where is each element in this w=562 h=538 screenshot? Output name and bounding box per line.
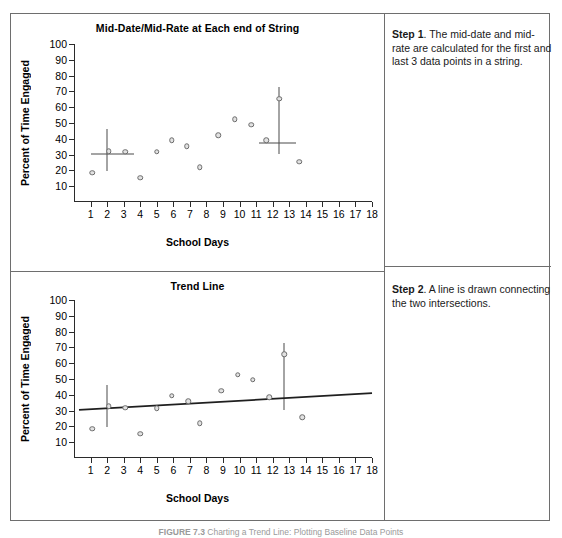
y-axis-tick <box>69 123 74 124</box>
x-axis-tick-label: 5 <box>154 208 160 220</box>
data-point <box>197 164 203 170</box>
chart-title: Mid-Date/Mid-Rate at Each end of String <box>11 22 384 34</box>
x-axis-tick <box>289 202 290 207</box>
y-axis-tick-label: 50 <box>55 117 67 129</box>
data-point <box>235 372 241 378</box>
x-axis-tick <box>372 458 373 463</box>
y-axis-tick <box>69 139 74 140</box>
data-point <box>169 393 175 399</box>
plot-area: 1020304050607080901001234567891011121314… <box>74 44 372 202</box>
data-point <box>300 414 306 420</box>
chart-panel-bottom: Trend Line Percent of Time Engaged 10203… <box>11 272 384 522</box>
x-axis-tick <box>223 458 224 463</box>
x-axis-tick <box>339 458 340 463</box>
x-axis-tick <box>240 202 241 207</box>
x-axis-tick <box>157 458 158 463</box>
x-axis-tick-label: 12 <box>267 464 279 476</box>
x-axis-tick-label: 13 <box>283 464 295 476</box>
x-axis-tick-label: 10 <box>234 208 246 220</box>
figure-frame: Mid-Date/Mid-Rate at Each end of String … <box>10 13 550 521</box>
x-axis-tick-label: 13 <box>283 208 295 220</box>
y-axis-tick-label: 30 <box>55 149 67 161</box>
y-axis-tick-label: 10 <box>55 180 67 192</box>
data-point <box>263 138 269 144</box>
data-point <box>106 149 112 155</box>
y-axis-label: Percent of Time Engaged <box>19 48 31 198</box>
trend-line <box>74 300 372 458</box>
data-point <box>137 175 143 181</box>
data-point <box>250 377 256 383</box>
x-axis-tick-label: 17 <box>350 464 362 476</box>
y-axis-tick <box>69 170 74 171</box>
x-axis-tick-label: 18 <box>366 208 378 220</box>
y-axis-tick-label: 100 <box>49 38 67 50</box>
x-axis-tick-label: 5 <box>154 464 160 476</box>
x-axis-tick-label: 16 <box>333 208 345 220</box>
y-axis-tick-label: 10 <box>55 436 67 448</box>
y-axis-tick-label: 70 <box>55 85 67 97</box>
x-axis-tick-label: 3 <box>121 208 127 220</box>
data-point <box>267 394 273 400</box>
step-2-label: Step 2 <box>392 283 424 295</box>
data-point <box>184 143 190 149</box>
y-axis-tick-label: 70 <box>55 341 67 353</box>
x-axis-tick <box>322 202 323 207</box>
x-axis-tick-label: 7 <box>187 464 193 476</box>
chart-panel-top: Mid-Date/Mid-Rate at Each end of String … <box>11 14 384 271</box>
x-axis-tick <box>240 458 241 463</box>
x-axis-tick-label: 7 <box>187 208 193 220</box>
figure-caption-label: FIGURE 7.3 <box>159 527 205 537</box>
x-axis-tick-label: 15 <box>316 464 328 476</box>
y-axis-tick-label: 90 <box>55 310 67 322</box>
y-axis-tick-label: 80 <box>55 326 67 338</box>
x-axis-tick-label: 2 <box>104 208 110 220</box>
x-axis-tick <box>91 202 92 207</box>
data-point <box>154 405 160 411</box>
data-point <box>232 116 238 122</box>
x-axis-tick-label: 11 <box>251 464 262 476</box>
x-axis-tick <box>107 202 108 207</box>
x-axis-tick-label: 12 <box>267 208 279 220</box>
data-point <box>219 388 225 394</box>
x-axis-tick-label: 14 <box>300 208 312 220</box>
x-axis-tick-label: 17 <box>350 208 362 220</box>
x-axis-tick-label: 8 <box>204 464 210 476</box>
x-axis-tick <box>107 458 108 463</box>
data-point <box>185 399 191 405</box>
y-axis-tick-label: 100 <box>49 294 67 306</box>
x-axis-tick <box>273 458 274 463</box>
x-axis-tick <box>322 458 323 463</box>
x-axis-tick <box>306 202 307 207</box>
y-axis-tick-label: 20 <box>55 164 67 176</box>
figure-caption-text: Charting a Trend Line: Plotting Baseline… <box>207 527 403 537</box>
y-axis-line <box>74 44 75 202</box>
y-axis-tick-label: 40 <box>55 389 67 401</box>
data-point <box>154 149 160 155</box>
panel-vertical-divider <box>384 14 385 520</box>
data-point <box>282 351 288 357</box>
x-axis-tick-label: 9 <box>220 208 226 220</box>
x-axis-tick-label: 2 <box>104 464 110 476</box>
y-axis-tick-label: 60 <box>55 357 67 369</box>
x-axis-tick <box>273 202 274 207</box>
x-axis-tick-label: 18 <box>366 464 378 476</box>
x-axis-tick <box>206 458 207 463</box>
x-axis-tick <box>173 202 174 207</box>
x-axis-tick <box>223 202 224 207</box>
y-axis-tick-label: 90 <box>55 54 67 66</box>
data-point <box>296 159 302 165</box>
step-horizontal-divider <box>384 266 551 267</box>
x-axis-tick-label: 11 <box>251 208 262 220</box>
y-axis-label: Percent of Time Engaged <box>19 304 31 454</box>
data-point <box>89 170 95 176</box>
x-axis-tick-label: 1 <box>88 208 94 220</box>
mid-date-mid-rate-chart: Mid-Date/Mid-Rate at Each end of String … <box>11 14 384 271</box>
x-axis-tick <box>91 458 92 463</box>
data-point <box>248 122 254 128</box>
x-axis-tick-label: 9 <box>220 464 226 476</box>
figure-caption: FIGURE 7.3 Charting a Trend Line: Plotti… <box>0 527 562 538</box>
y-axis-tick <box>69 76 74 77</box>
x-axis-tick-label: 16 <box>333 464 345 476</box>
y-axis-tick-label: 30 <box>55 405 67 417</box>
x-axis-tick <box>124 458 125 463</box>
